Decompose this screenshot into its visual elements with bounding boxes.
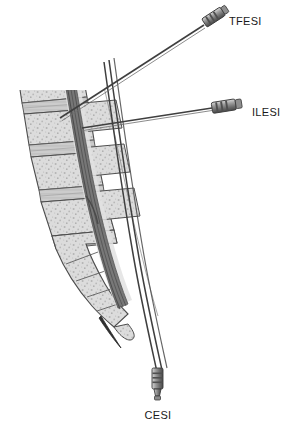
label-tfesi: TFESI [229, 15, 262, 27]
label-ilesi: ILESI [252, 106, 280, 118]
ilesi-hub-cap [235, 99, 242, 109]
epidural-injection-figure: TFESI ILESI CESI [0, 0, 288, 424]
cesi-hub-cap [155, 396, 161, 400]
label-cesi: CESI [145, 409, 172, 421]
spine-illustration-svg: TFESI ILESI CESI [0, 0, 288, 424]
cesi-hub-taper [154, 389, 161, 396]
